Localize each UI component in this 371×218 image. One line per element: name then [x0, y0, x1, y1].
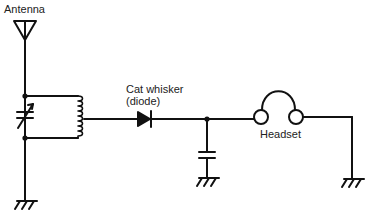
ground-icon — [15, 201, 37, 209]
ground-icon — [197, 178, 219, 186]
inductor-coil-icon — [78, 96, 83, 138]
diode-icon — [138, 111, 151, 127]
antenna-icon — [14, 21, 36, 40]
circuit-schematic — [0, 0, 371, 218]
ground-icon — [342, 179, 364, 187]
headset-icon — [254, 91, 303, 124]
